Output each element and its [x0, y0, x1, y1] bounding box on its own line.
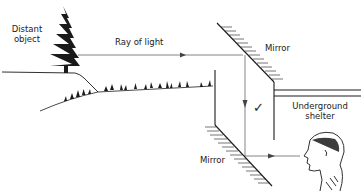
label-line: Underground [285, 101, 355, 111]
mirror-top-label: Mirror [265, 43, 290, 53]
label-line: object [7, 34, 47, 44]
arrow-icon [180, 53, 186, 58]
ray-of-light-label: Ray of light [115, 37, 163, 47]
mirror-bottom-label: Mirror [200, 155, 225, 165]
person-head-icon [304, 132, 344, 191]
label-line: Distant [7, 24, 47, 34]
arrow-icon [243, 100, 248, 108]
tree-icon [50, 6, 80, 73]
check-mark-icon: ✓ [253, 103, 264, 113]
periscope-diagram [0, 0, 361, 191]
arrow-icon [268, 154, 275, 159]
grass-icon [64, 80, 211, 101]
shelter-label: Underground shelter [285, 101, 355, 121]
distant-object-label: Distant object [7, 24, 47, 44]
ground-line [2, 72, 98, 92]
label-line: shelter [285, 111, 355, 121]
